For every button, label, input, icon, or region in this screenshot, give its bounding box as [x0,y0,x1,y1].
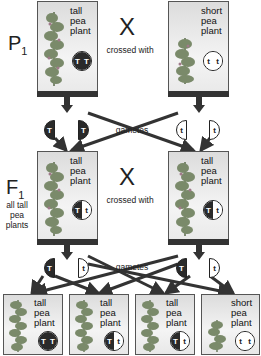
tall-plant-icon [140,299,160,353]
card-base [168,91,229,97]
tall-plant-icon [174,160,196,238]
plant-label: tallpeaplant [100,298,121,328]
f2-offspring-card-TT: tallpeaplant TT [3,294,63,355]
tall-plant-icon [8,299,28,353]
f2-offspring-card-tt: shortpeaplant tt [201,294,260,355]
genotype-circle-Tt: Tt [203,200,223,220]
genotype-circle-tt: tt [203,51,223,71]
f1-parent-card: tallpeaplant Tt [37,151,98,245]
p1-short-parent-card: shortpeaplant tt [168,1,229,97]
short-plant-icon [207,319,227,353]
plant-label: tallpeaplant [70,6,91,36]
gametes-label: gametes [112,125,152,135]
tall-plant-icon [43,10,65,88]
genotype-circle-tt: tt [235,331,255,351]
crossed-with-label: crossed with [104,195,156,205]
genotype-circle-Tt: Tt [170,331,190,351]
gametes-label: gametes [112,262,152,272]
f2-offspring-card-Tt: tallpeaplant Tt [69,294,129,355]
plant-label: tallpeaplant [166,298,187,328]
genotype-circle-Tt: Tt [72,200,92,220]
cross-symbol: X [119,163,135,191]
p1-generation-label: P1 [8,32,27,57]
plant-label: tallpeaplant [70,156,91,186]
crossed-with-label: crossed with [104,45,156,55]
plant-label: tallpeaplant [34,298,55,328]
plant-label: shortpeaplant [231,298,252,328]
card-base [168,239,229,245]
genotype-circle-Tt: Tt [104,331,124,351]
card-base [37,91,98,97]
tall-plant-icon [43,160,65,238]
plant-label: tallpeaplant [201,156,222,186]
genotype-circle-TT: TT [38,331,58,351]
plant-label: shortpeaplant [201,6,222,36]
tall-plant-icon [74,299,94,353]
card-base [37,239,98,245]
f1-note: all tallpeaplants [0,200,34,230]
f2-offspring-card-Tt: tallpeaplant Tt [135,294,195,355]
cross-symbol: X [119,13,135,41]
f1-generation-label: F1 [6,176,24,201]
short-plant-icon [174,36,196,86]
genotype-circle-TT: TT [72,51,92,71]
p1-tall-parent-card: tallpeaplant TT [37,1,98,97]
f1-parent-card: tallpeaplant Tt [168,151,229,245]
